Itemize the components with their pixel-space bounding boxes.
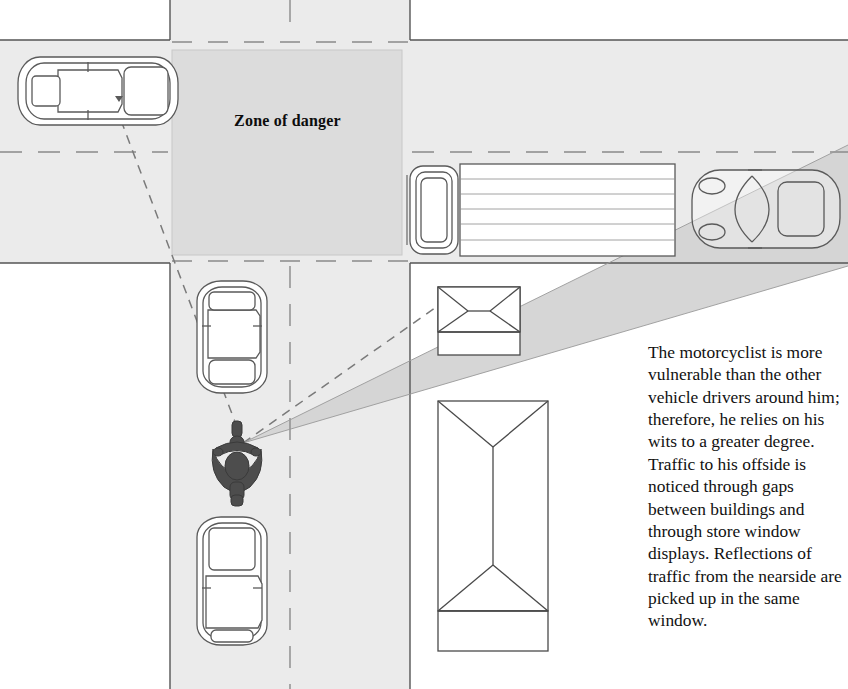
car-left-horizontal bbox=[18, 57, 178, 125]
car-upper-vertical bbox=[197, 281, 267, 393]
truck-vehicle bbox=[407, 164, 675, 256]
small-building bbox=[438, 287, 520, 355]
car-lower-vertical bbox=[197, 517, 267, 645]
sports-car-right bbox=[692, 170, 840, 248]
zone-of-danger-area bbox=[172, 50, 402, 255]
large-building bbox=[438, 401, 548, 651]
figure-caption: The motorcyclist is more vulnerable than… bbox=[648, 341, 844, 632]
figure-canvas: Zone of danger The motorcyclist is more … bbox=[0, 0, 848, 689]
